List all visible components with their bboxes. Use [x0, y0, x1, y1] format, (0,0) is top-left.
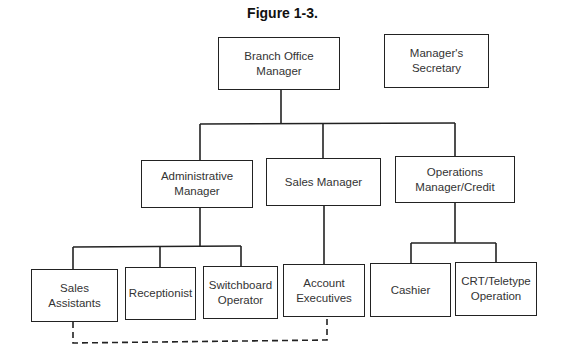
node-branch-office-manager: Branch Office Manager	[218, 37, 340, 90]
node-administrative-manager: Administrative Manager	[141, 160, 253, 208]
node-cashier: Cashier	[370, 263, 451, 317]
node-receptionist: Receptionist	[125, 267, 196, 320]
node-account-executives: Account Executives	[283, 264, 365, 317]
node-sales-manager: Sales Manager	[266, 158, 381, 206]
node-switchboard-operator: Switchboard Operator	[203, 266, 278, 319]
node-managers-secretary: Manager's Secretary	[384, 34, 489, 88]
node-crt-teletype-operation: CRT/Teletype Operation	[455, 262, 537, 316]
node-operations-manager: Operations Manager/Credit	[395, 156, 515, 203]
node-sales-assistants: Sales Assistants	[31, 269, 118, 322]
